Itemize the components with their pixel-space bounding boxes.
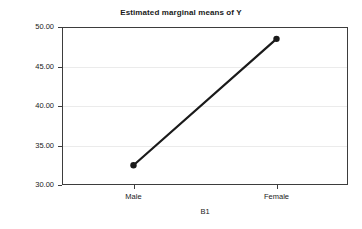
estimated-marginal-means-chart: Estimated marginal means of Y Estimated … (0, 0, 362, 229)
x-axis-title: B1 (62, 207, 348, 216)
data-point-marker (273, 36, 279, 42)
series-line (134, 39, 277, 165)
data-series-layer (0, 0, 362, 229)
data-point-marker (130, 162, 136, 168)
